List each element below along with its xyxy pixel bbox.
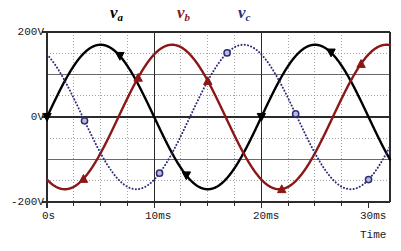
legend-vb-base: v: [177, 3, 185, 22]
x-tick-label-1: 10ms: [145, 210, 171, 222]
marker-v_c: [293, 111, 299, 117]
x-axis-title: Time: [360, 229, 386, 241]
x-tick-label-3: 30ms: [360, 210, 386, 222]
legend-vb-sub: b: [185, 11, 191, 23]
legend-vc-base: v: [238, 3, 246, 22]
legend-label-vc: vc: [238, 4, 250, 23]
legend-va-base: v: [110, 3, 118, 22]
marker-layer: [43, 49, 372, 193]
chart-container: va vb vc 200V 0V -200V 0s 10ms 20ms 30ms…: [0, 0, 401, 251]
marker-v_c: [365, 176, 371, 182]
axes-frame: [47, 32, 390, 202]
marker-v_c: [224, 50, 230, 56]
marker-v_c: [81, 118, 87, 124]
legend-va-sub: a: [118, 11, 124, 23]
y-tick-label-mid: 0V: [0, 111, 44, 123]
y-tick-label-bottom: -200V: [0, 196, 44, 208]
legend-label-vb: vb: [177, 4, 190, 23]
waveform-plot: [0, 0, 401, 251]
y-tick-label-top: 200V: [0, 26, 44, 38]
legend-label-va: va: [110, 4, 123, 23]
marker-v_c: [156, 170, 162, 176]
x-tick-label-0: 0s: [42, 210, 55, 222]
x-tick-label-2: 20ms: [253, 210, 279, 222]
legend-vc-sub: c: [246, 11, 251, 23]
axis-ticks: [42, 32, 369, 208]
